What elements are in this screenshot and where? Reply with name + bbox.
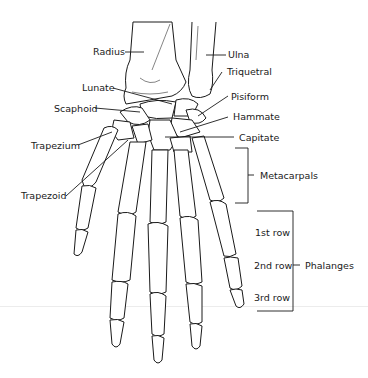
carpal-bones	[113, 99, 206, 152]
hand-bone-diagram: Radius Ulna Triquetral Lunate Pisiform S…	[0, 0, 368, 378]
label-radius: Radius	[93, 47, 125, 57]
label-triquetral: Triquetral	[227, 67, 272, 77]
label-metacarpals: Metacarpals	[260, 171, 318, 181]
hand-skeleton-illustration	[0, 0, 368, 378]
radius-bone	[124, 22, 186, 104]
label-scaphoid: Scaphoid	[54, 104, 98, 114]
label-trapezoid: Trapezoid	[21, 191, 66, 201]
label-2nd-row: 2nd row	[254, 261, 292, 271]
trapezoid-bone	[132, 124, 152, 144]
ring-finger-bones	[174, 150, 202, 349]
middle-finger-bones	[148, 150, 168, 363]
label-3rd-row: 3rd row	[254, 293, 290, 303]
label-hammate: Hammate	[233, 112, 280, 122]
index-finger-bones	[110, 142, 146, 347]
label-lunate: Lunate	[82, 83, 115, 93]
label-ulna: Ulna	[228, 50, 249, 60]
label-phalanges: Phalanges	[305, 261, 354, 271]
label-pisiform: Pisiform	[231, 92, 269, 102]
label-capitate: Capitate	[239, 133, 279, 143]
label-trapezium: Trapezium	[31, 141, 80, 151]
ulna-bone	[188, 22, 216, 98]
label-1st-row: 1st row	[255, 228, 290, 238]
thumb-bones	[74, 126, 118, 255]
